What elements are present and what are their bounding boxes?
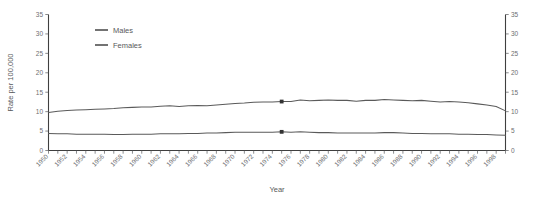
x-tick-label: 1970 <box>221 152 236 167</box>
x-tick-label: 1982 <box>333 152 348 167</box>
line-chart-svg: 05101520253035 05101520253035 1950195219… <box>0 0 546 205</box>
x-tick-label: 1996 <box>463 152 478 167</box>
x-tick-label: 1988 <box>389 152 404 167</box>
x-tick-label: 1954 <box>72 152 87 167</box>
axis-titles: Rate per 100,000Year <box>6 54 285 194</box>
legend-label-males: Males <box>113 26 133 35</box>
x-tick-label: 1956 <box>90 152 105 167</box>
y-tick-label-left: 30 <box>36 30 44 37</box>
x-tick-label: 1974 <box>258 152 273 167</box>
y-tick-label-left: 5 <box>39 127 43 134</box>
y-tick-label-left: 15 <box>36 89 44 96</box>
x-tick-label: 1994 <box>445 152 460 167</box>
x-tick-label: 1950 <box>34 152 49 167</box>
x-tick-label: 1960 <box>127 152 142 167</box>
x-tick-label: 1992 <box>426 152 441 167</box>
y-tick-label-right: 15 <box>511 89 519 96</box>
x-axis-title: Year <box>269 185 285 194</box>
data-point-marker <box>280 130 284 134</box>
chart-figure: 05101520253035 05101520253035 1950195219… <box>0 0 546 205</box>
x-tick-label: 1986 <box>370 152 385 167</box>
series-line-males <box>49 100 506 113</box>
y-tick-label-right: 30 <box>511 30 519 37</box>
x-tick-label: 1966 <box>183 152 198 167</box>
x-tick-label: 1980 <box>314 152 329 167</box>
legend-label-females: Females <box>113 41 142 50</box>
y-tick-label-right: 0 <box>511 147 515 154</box>
y-tick-label-right: 35 <box>511 11 519 18</box>
x-tick-label: 1968 <box>202 152 217 167</box>
y-tick-label-left: 10 <box>36 108 44 115</box>
x-tick-label: 1958 <box>109 152 124 167</box>
chart-legend: MalesFemales <box>95 26 142 50</box>
x-tick-label: 1998 <box>482 152 497 167</box>
y-tick-label-left: 25 <box>36 50 44 57</box>
series-line-females <box>49 132 506 136</box>
y-tick-label-left: 35 <box>36 11 44 18</box>
x-tick-label: 1976 <box>277 152 292 167</box>
y-tick-label-right: 25 <box>511 50 519 57</box>
right-axis: 05101520253035 <box>506 11 519 154</box>
left-axis: 05101520253035 <box>36 11 49 154</box>
x-tick-label: 1962 <box>146 152 161 167</box>
bottom-axis: 1950195219541956195819601962196419661968… <box>34 151 505 168</box>
x-tick-label: 1972 <box>239 152 254 167</box>
x-tick-label: 1952 <box>53 152 68 167</box>
x-tick-label: 1984 <box>351 152 366 167</box>
y-tick-label-right: 5 <box>511 127 515 134</box>
data-point-marker <box>280 100 284 104</box>
y-tick-label-right: 10 <box>511 108 519 115</box>
y-tick-label-right: 20 <box>511 69 519 76</box>
y-tick-label-left: 20 <box>36 69 44 76</box>
series-lines <box>49 100 506 136</box>
x-tick-label: 1978 <box>295 152 310 167</box>
x-tick-label: 1990 <box>407 152 422 167</box>
y-axis-title: Rate per 100,000 <box>6 54 15 112</box>
x-tick-label: 1964 <box>165 152 180 167</box>
